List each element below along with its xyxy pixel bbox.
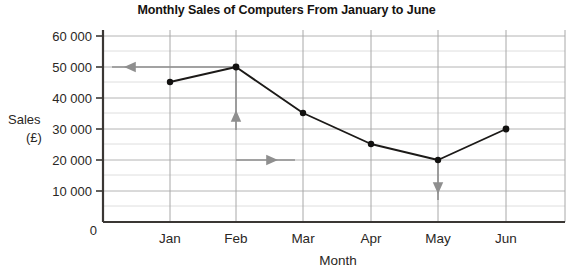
y-tick-label-20000: 20 000 (52, 153, 92, 168)
plot-background (103, 30, 565, 222)
data-point-feb (233, 64, 240, 71)
data-point-apr (368, 141, 374, 147)
data-point-jun (503, 126, 510, 133)
x-tick-label-mar: Mar (291, 231, 315, 246)
x-tick-label-feb: Feb (224, 231, 247, 246)
y-tick-label-0: 0 (90, 223, 97, 238)
data-point-may (435, 157, 441, 163)
x-axis-tick-labels: Jan Feb Mar Apr May Jun (159, 231, 517, 246)
y-tick-label-60000: 60 000 (52, 29, 92, 44)
y-tick-label-10000: 10 000 (52, 184, 92, 199)
y-axis-title-line1: Sales (8, 112, 41, 127)
y-tick-label-30000: 30 000 (52, 122, 92, 137)
y-axis-tick-labels: 60 000 50 000 40 000 30 000 20 000 10 00… (52, 29, 97, 238)
chart-page: Monthly Sales of Computers From January … (0, 0, 573, 273)
y-tick-label-40000: 40 000 (52, 91, 92, 106)
x-tick-label-jun: Jun (495, 231, 517, 246)
x-tick-label-jan: Jan (159, 231, 181, 246)
x-axis-title: Month (319, 253, 357, 268)
x-tick-label-apr: Apr (360, 231, 382, 246)
y-axis-title-line2: (£) (26, 130, 42, 145)
line-chart: 60 000 50 000 40 000 30 000 20 000 10 00… (0, 0, 573, 273)
y-tick-label-50000: 50 000 (52, 60, 92, 75)
x-tick-label-may: May (425, 231, 451, 246)
y-axis-title: Sales (£) (8, 112, 42, 145)
data-point-jan (167, 79, 173, 85)
data-point-mar (300, 110, 306, 116)
